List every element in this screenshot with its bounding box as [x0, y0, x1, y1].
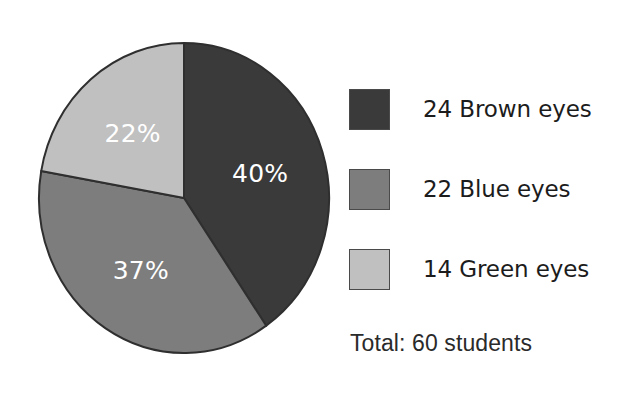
total-students-text: Total: 60 students — [350, 330, 532, 357]
legend-item-brown: 24 Brown eyes — [349, 86, 611, 132]
pie-label-green: 22% — [104, 119, 160, 148]
pie-chart-figure: 40% 37% 22% 24 Brown eyes 22 Blue eyes 1… — [0, 0, 620, 398]
pie-chart-graphic: 40% 37% 22% — [36, 40, 332, 356]
legend: 24 Brown eyes 22 Blue eyes 14 Green eyes — [349, 86, 611, 326]
legend-swatch-blue — [349, 169, 390, 210]
pie-label-brown: 40% — [232, 159, 288, 188]
legend-label-brown: 24 Brown eyes — [423, 96, 592, 122]
pie-svg: 40% 37% 22% — [36, 40, 332, 356]
legend-label-green: 14 Green eyes — [423, 256, 589, 282]
legend-swatch-brown — [349, 89, 390, 130]
pie-label-blue: 37% — [113, 256, 169, 285]
legend-item-blue: 22 Blue eyes — [349, 166, 611, 212]
legend-label-blue: 22 Blue eyes — [423, 176, 570, 202]
legend-item-green: 14 Green eyes — [349, 246, 611, 292]
legend-swatch-green — [349, 249, 390, 290]
